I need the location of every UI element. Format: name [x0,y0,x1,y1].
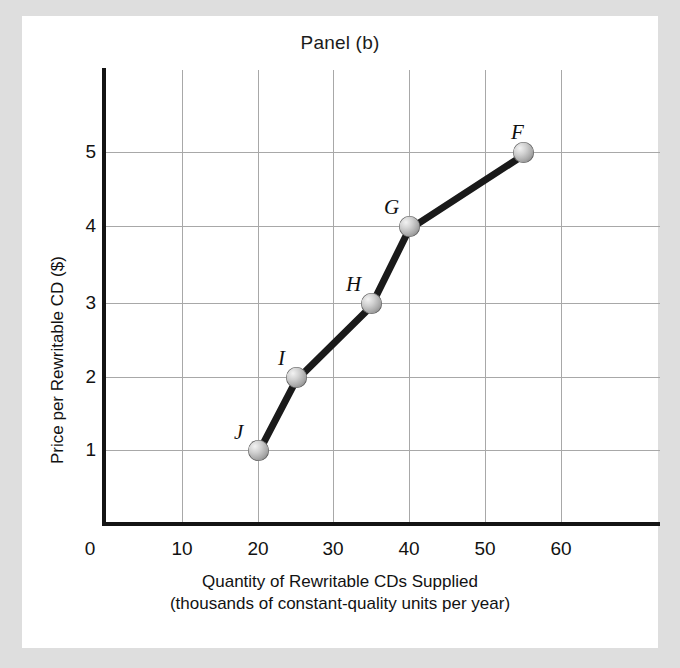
x-tick-label-10: 10 [162,538,202,560]
series-segment-g-f [407,152,525,232]
data-point-i[interactable] [286,367,307,388]
y-tick-label-2: 2 [66,366,96,388]
y-axis-title: Price per Rewritable CD ($) [48,256,68,464]
x-axis-title-main: Quantity of Rewritable CDs Supplied [22,571,658,593]
y-axis-line [102,68,106,526]
figure-card: Panel (b) 5 4 3 2 1 0 [22,16,658,648]
y-tick-label-1: 1 [66,439,96,461]
gridline-vertical-40 [409,70,410,526]
data-point-label-f: F [511,120,524,145]
data-point-label-g: G [384,195,399,220]
gridline-vertical-60 [561,70,562,526]
data-point-g[interactable] [399,216,420,237]
x-axis-title-sub: (thousands of constant-quality units per… [22,593,658,615]
x-tick-label-0: 0 [70,538,110,560]
x-axis-line [102,522,660,526]
data-point-j[interactable] [248,440,269,461]
data-point-label-j: J [234,420,243,445]
x-tick-label-30: 30 [313,538,353,560]
gridline-horizontal-5 [104,152,660,153]
x-tick-label-40: 40 [389,538,429,560]
x-tick-label-50: 50 [465,538,505,560]
data-point-label-h: H [346,272,361,297]
figure-page: Panel (b) 5 4 3 2 1 0 [0,0,680,668]
gridline-vertical-30 [333,70,334,526]
gridline-horizontal-1 [104,450,660,451]
y-tick-label-3: 3 [66,292,96,314]
x-tick-label-60: 60 [541,538,581,560]
gridline-vertical-50 [485,70,486,526]
y-tick-label-5: 5 [66,141,96,163]
data-point-label-i: I [278,346,285,371]
y-tick-label-4: 4 [66,215,96,237]
gridline-horizontal-4 [104,226,660,227]
plot-area: 5 4 3 2 1 0 10 20 30 40 50 60 [22,16,658,648]
x-tick-label-20: 20 [238,538,278,560]
gridline-horizontal-3 [104,303,660,304]
gridline-horizontal-2 [104,377,660,378]
gridline-vertical-10 [182,70,183,526]
x-axis-title: Quantity of Rewritable CDs Supplied (tho… [22,571,658,616]
data-point-h[interactable] [361,293,382,314]
